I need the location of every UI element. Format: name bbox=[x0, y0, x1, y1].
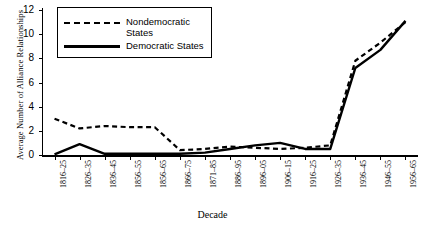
legend-label-democratic: Democratic States bbox=[126, 40, 204, 51]
legend-swatch-nondemocratic bbox=[64, 22, 120, 24]
x-axis-title: Decade bbox=[0, 209, 425, 220]
chart-legend: Nondemocratic States Democratic States bbox=[57, 7, 212, 58]
legend-swatch-democratic bbox=[64, 45, 120, 48]
legend-label-nondemocratic: Nondemocratic States bbox=[126, 16, 190, 38]
alliance-relationships-line-chart: Average Number of Alliance Relationships… bbox=[0, 0, 425, 230]
